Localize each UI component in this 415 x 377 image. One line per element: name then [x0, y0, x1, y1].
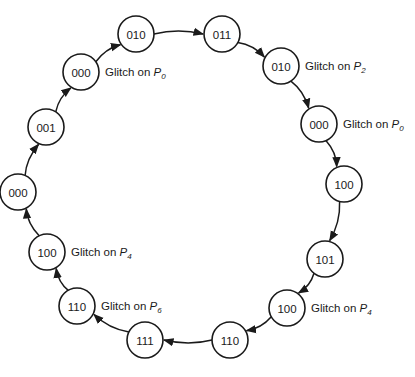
- state-node: 110: [59, 288, 95, 324]
- glitch-annotation-prefix: Glitch on: [105, 66, 154, 78]
- glitch-annotation-prefix: Glitch on: [305, 60, 354, 72]
- state-node: 111: [127, 322, 163, 358]
- transition-arrow: [291, 81, 309, 108]
- glitch-annotation-subscript: 4: [127, 252, 132, 261]
- state-node-label: 100: [334, 179, 353, 191]
- transition-arrow: [96, 45, 121, 62]
- transition-arrow: [25, 144, 38, 175]
- state-node: 100: [326, 166, 362, 202]
- state-node: 000: [63, 54, 99, 90]
- transition-arrow: [26, 209, 39, 236]
- glitch-annotation-subscript: 0: [161, 72, 166, 81]
- glitch-annotation: Glitch on P6: [101, 300, 162, 315]
- state-node-label: 100: [37, 247, 56, 259]
- state-node: 100: [29, 234, 65, 270]
- state-node-label: 011: [213, 29, 231, 41]
- state-node: 100: [269, 290, 305, 326]
- transition-arrow: [94, 315, 129, 333]
- state-node-label: 100: [277, 303, 296, 315]
- state-node-label: 000: [309, 119, 328, 131]
- state-node-label: 110: [68, 301, 86, 313]
- state-node-label: 000: [71, 67, 90, 79]
- glitch-annotation: Glitch on P0: [343, 118, 404, 133]
- glitch-annotation: Glitch on P2: [305, 60, 366, 75]
- transition-arrow: [330, 201, 340, 240]
- glitch-annotation-prefix: Glitch on: [343, 118, 392, 130]
- state-node: 101: [307, 241, 343, 277]
- state-node: 010: [118, 16, 154, 52]
- state-node-label: 110: [221, 335, 239, 347]
- state-node-label: 101: [315, 254, 334, 266]
- glitch-annotation-subscript: 2: [360, 66, 366, 75]
- state-node: 000: [301, 106, 337, 142]
- glitch-annotation-subscript: 6: [157, 306, 162, 315]
- transition-arrow: [326, 141, 337, 167]
- state-node: 110: [212, 322, 248, 358]
- glitch-annotation-prefix: Glitch on: [71, 246, 120, 258]
- transition-arrow: [56, 88, 71, 112]
- state-node: 010: [263, 48, 299, 84]
- transition-arrow: [164, 340, 212, 343]
- transition-arrow: [247, 317, 272, 331]
- glitch-annotation: Glitch on P4: [311, 302, 372, 317]
- transition-arrow: [299, 273, 314, 293]
- state-node-label: 001: [36, 122, 55, 134]
- state-node-label: 010: [271, 61, 290, 73]
- state-cycle-diagram: 0100110100001001011001101111101000000010…: [0, 0, 415, 377]
- glitch-annotation-subscript: 4: [367, 308, 372, 317]
- glitch-annotation-prefix: Glitch on: [101, 300, 150, 312]
- transition-arrow: [56, 269, 68, 291]
- state-node: 011: [204, 16, 240, 52]
- state-node-label: 000: [8, 187, 27, 199]
- state-node-label: 111: [136, 335, 153, 347]
- state-node: 001: [28, 109, 64, 145]
- glitch-annotation: Glitch on P0: [105, 66, 166, 81]
- glitch-annotation-subscript: 0: [399, 124, 404, 133]
- glitch-annotation-prefix: Glitch on: [311, 302, 360, 314]
- state-node-label: 010: [126, 29, 145, 41]
- state-node: 000: [0, 174, 36, 210]
- transition-arrow: [238, 43, 264, 57]
- transition-arrow: [154, 31, 203, 34]
- glitch-annotation: Glitch on P4: [71, 246, 132, 261]
